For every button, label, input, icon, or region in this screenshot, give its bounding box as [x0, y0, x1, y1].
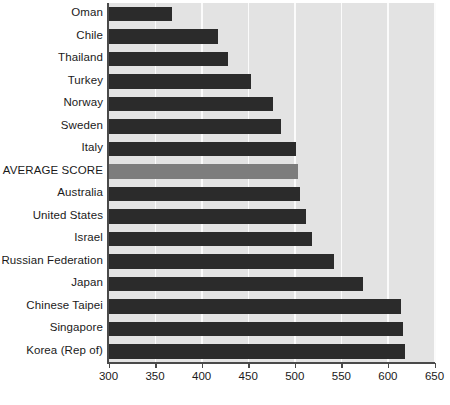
- bar-category-label: Norway: [0, 96, 103, 108]
- bar-row: Oman: [0, 3, 450, 25]
- x-tick-mark-350: [155, 363, 157, 368]
- bar-row: Chile: [0, 26, 450, 48]
- bar: [109, 29, 219, 44]
- bar-category-label: Turkey: [0, 74, 103, 86]
- bar-category-label: Sweden: [0, 119, 103, 131]
- bar: [109, 232, 313, 247]
- bar-row: Norway: [0, 93, 450, 115]
- bar-category-label: Korea (Rep of): [0, 344, 103, 356]
- bar-category-label: Singapore: [0, 321, 103, 333]
- bar-category-label: AVERAGE SCORE: [0, 164, 103, 176]
- x-tick-mark-400: [202, 363, 204, 368]
- bar: [109, 344, 405, 359]
- bar-row: Sweden: [0, 116, 450, 138]
- x-tick-mark-300: [109, 363, 111, 368]
- bar-category-label: Thailand: [0, 51, 103, 63]
- bar-category-label: Australia: [0, 186, 103, 198]
- bar-row: United States: [0, 206, 450, 228]
- bar-category-label: United States: [0, 209, 103, 221]
- bar-row: Japan: [0, 273, 450, 295]
- bar-category-label: Italy: [0, 141, 103, 153]
- bar-row: Thailand: [0, 48, 450, 70]
- bar-row: Israel: [0, 228, 450, 250]
- bar-row: Singapore: [0, 318, 450, 340]
- bar: [109, 142, 296, 157]
- bar-category-label: Japan: [0, 276, 103, 288]
- bar: [109, 277, 363, 292]
- bar-row: Australia: [0, 183, 450, 205]
- bar-category-label: Oman: [0, 6, 103, 18]
- bar-row: Korea (Rep of): [0, 341, 450, 363]
- bar-category-label: Israel: [0, 231, 103, 243]
- bar: [109, 299, 401, 314]
- x-tick-mark-600: [388, 363, 390, 368]
- bar-chart: OmanChileThailandTurkeyNorwaySwedenItaly…: [0, 0, 450, 405]
- bar-row: Italy: [0, 138, 450, 160]
- bar-category-label: Chinese Taipei: [0, 299, 103, 311]
- x-tick-mark-500: [295, 363, 297, 368]
- bar: [109, 119, 281, 134]
- bar: [109, 254, 334, 269]
- x-tick-label: 650: [405, 370, 450, 382]
- bar: [109, 7, 172, 22]
- bar: [109, 209, 306, 224]
- bar: [109, 52, 228, 67]
- bar-category-label: Russian Federation: [0, 254, 103, 266]
- x-tick-mark-450: [248, 363, 250, 368]
- x-tick-mark-550: [341, 363, 343, 368]
- x-tick-mark-650: [435, 363, 437, 368]
- bar-row: Chinese Taipei: [0, 296, 450, 318]
- bar: [109, 322, 403, 337]
- bar-row: Turkey: [0, 71, 450, 93]
- bar-category-label: Chile: [0, 29, 103, 41]
- bar: [109, 187, 301, 202]
- bar: [109, 97, 274, 112]
- bar-average-score: [109, 164, 298, 179]
- bar-row: AVERAGE SCORE: [0, 161, 450, 183]
- bar-row: Russian Federation: [0, 251, 450, 273]
- bar: [109, 74, 252, 89]
